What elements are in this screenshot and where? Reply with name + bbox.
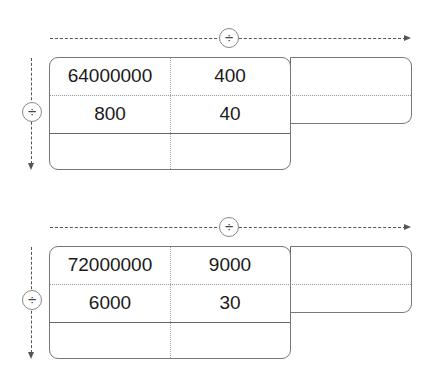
- cell-r1-c3-blank[interactable]: [291, 246, 411, 284]
- cell-r1-c1: 72000000: [50, 246, 170, 284]
- cell-r1-c3-blank[interactable]: [291, 57, 411, 95]
- divide-operator-vertical: ÷: [22, 102, 42, 122]
- division-table-1: ÷ ÷ 64000000 400 800 40: [0, 0, 440, 190]
- cell-r2-c1: 800: [50, 95, 170, 133]
- cell-r2-c2: 40: [170, 95, 290, 133]
- divide-operator-vertical: ÷: [22, 290, 42, 310]
- cell-r3-c2-blank[interactable]: [170, 322, 290, 360]
- cell-r1-c1: 64000000: [50, 57, 170, 95]
- cell-r1-c2: 9000: [170, 246, 290, 284]
- cell-r3-c1-blank[interactable]: [50, 133, 170, 171]
- arrow-right-icon: [404, 35, 411, 41]
- cell-r2-c2: 30: [170, 284, 290, 322]
- cell-r1-c2: 400: [170, 57, 290, 95]
- arrow-right-icon: [404, 224, 411, 230]
- cell-r3-c2-blank[interactable]: [170, 133, 290, 171]
- cell-r2-c3-blank[interactable]: [291, 284, 411, 322]
- cell-r2-c1: 6000: [50, 284, 170, 322]
- cell-r3-c1-blank[interactable]: [50, 322, 170, 360]
- arrow-down-icon: [28, 163, 34, 170]
- division-table-2: ÷ ÷ 72000000 9000 6000 30: [0, 189, 440, 379]
- divide-operator-horizontal: ÷: [219, 217, 239, 237]
- divide-operator-horizontal: ÷: [219, 28, 239, 48]
- cell-r2-c3-blank[interactable]: [291, 95, 411, 133]
- arrow-down-icon: [28, 352, 34, 359]
